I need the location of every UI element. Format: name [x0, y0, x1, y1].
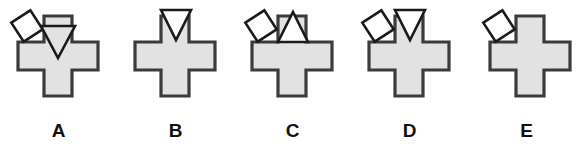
option-label-d: D — [351, 116, 468, 146]
figure-a — [0, 0, 117, 116]
figure-c — [234, 0, 351, 116]
figure-d — [351, 0, 468, 116]
option-label-c: C — [234, 116, 351, 146]
answer-option-b[interactable]: B — [117, 0, 234, 158]
option-label-b: B — [117, 116, 234, 146]
figure-e — [468, 0, 585, 116]
diamond-shape — [483, 10, 514, 41]
answer-option-a[interactable]: A — [0, 0, 117, 158]
diamond-shape — [245, 10, 276, 41]
option-label-a: A — [0, 116, 117, 146]
option-label-e: E — [468, 116, 585, 146]
figure-b — [117, 0, 234, 116]
answer-option-c[interactable]: C — [234, 0, 351, 158]
diamond-shape — [11, 10, 42, 41]
diamond-shape — [362, 10, 393, 41]
answer-option-e[interactable]: E — [468, 0, 585, 158]
answer-option-d[interactable]: D — [351, 0, 468, 158]
answer-options-row: ABCDE — [0, 0, 585, 158]
